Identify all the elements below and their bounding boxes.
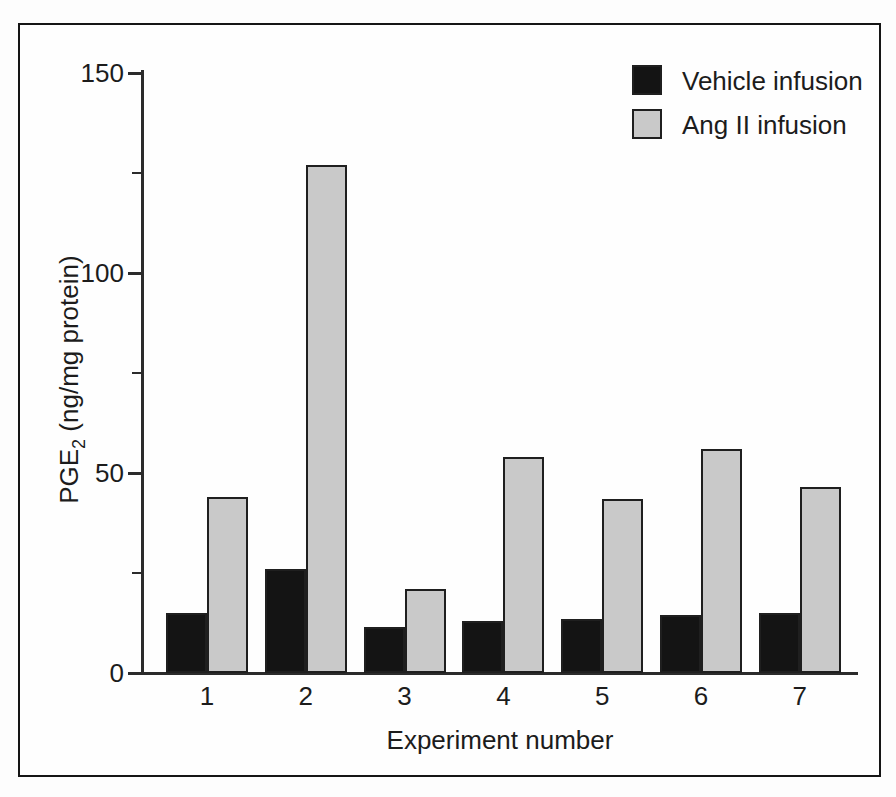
bar-angii-5 (602, 499, 643, 673)
y-minor-tick-75 (132, 372, 141, 374)
y-tick-150 (128, 72, 141, 75)
bar-angii-4 (503, 457, 544, 673)
legend-label-vehicle: Vehicle infusion (682, 66, 863, 96)
y-tick-100 (128, 272, 141, 275)
legend-label-angii: Ang II infusion (682, 110, 847, 140)
bar-vehicle-2 (265, 569, 306, 673)
x-tick-label-3: 3 (365, 681, 445, 711)
y-tick-label-100: 100 (20, 258, 124, 288)
x-tick-label-5: 5 (562, 681, 642, 711)
y-tick-0 (128, 672, 141, 675)
x-tick-label-7: 7 (760, 681, 840, 711)
y-minor-tick-25 (132, 572, 141, 574)
y-tick-50 (128, 472, 141, 475)
y-axis-line (141, 70, 144, 675)
plot-area: PGE2 (ng/mg protein) Experiment number V… (20, 25, 879, 775)
legend-swatch-vehicle (632, 65, 662, 95)
bar-vehicle-5 (561, 619, 602, 673)
bar-angii-3 (405, 589, 446, 673)
bar-vehicle-4 (462, 621, 503, 673)
x-tick-label-6: 6 (661, 681, 741, 711)
bar-angii-7 (800, 487, 841, 673)
bar-angii-2 (306, 165, 347, 673)
bar-angii-1 (207, 497, 248, 673)
bar-vehicle-3 (364, 627, 405, 673)
x-axis-title: Experiment number (141, 725, 859, 756)
x-tick-label-1: 1 (167, 681, 247, 711)
y-tick-label-50: 50 (20, 458, 124, 488)
bar-vehicle-7 (759, 613, 800, 673)
y-tick-label-150: 150 (20, 58, 124, 88)
chart-canvas: PGE2 (ng/mg protein) Experiment number V… (0, 0, 896, 797)
figure-frame: PGE2 (ng/mg protein) Experiment number V… (18, 23, 881, 777)
y-minor-tick-125 (132, 172, 141, 174)
x-tick-label-2: 2 (266, 681, 346, 711)
legend-swatch-angii (632, 109, 662, 139)
bar-vehicle-1 (166, 613, 207, 673)
y-tick-label-0: 0 (20, 658, 124, 688)
x-tick-label-4: 4 (463, 681, 543, 711)
bar-angii-6 (701, 449, 742, 673)
bar-vehicle-6 (660, 615, 701, 673)
